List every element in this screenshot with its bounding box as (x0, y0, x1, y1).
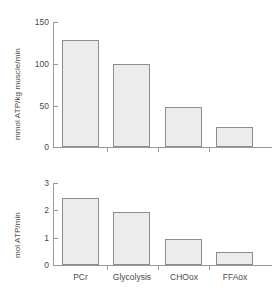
bar-bottom-choox (165, 239, 202, 265)
y-tick-mark-bottom-3 (54, 183, 58, 184)
bar-top-glycolysis (113, 64, 150, 147)
bar-top-ffaox (216, 127, 253, 147)
chart-panel-top: mmol ATP/kg muscle/min 150 100 50 0 (0, 0, 276, 158)
bar-bottom-pcr (62, 198, 99, 265)
y-tick-label-top-0: 0 (25, 143, 49, 151)
x-category-label-ffaox: FFAox (209, 272, 261, 282)
y-axis-label-bottom: mol ATP/min (13, 212, 22, 258)
y-tick-label-bottom-1: 1 (25, 234, 49, 242)
bar-bottom-ffaox (216, 252, 253, 265)
y-tick-mark-bottom-1 (54, 238, 58, 239)
x-category-label-choox: CHOox (158, 272, 210, 282)
bar-top-choox (165, 107, 202, 147)
x-tick-mark-bottom-1 (107, 266, 108, 270)
x-tick-mark-top-1 (107, 148, 108, 152)
chart-panel-bottom: mol ATP/min 3 2 1 0 PCr Glycolysis CHOox… (0, 158, 276, 305)
y-tick-mark-top-50 (54, 106, 58, 107)
figure: mmol ATP/kg muscle/min 150 100 50 0 mol … (0, 0, 276, 305)
x-tick-mark-top-2 (158, 148, 159, 152)
y-axis-line-bottom (53, 183, 54, 265)
y-tick-label-top-150: 150 (25, 18, 49, 26)
y-tick-label-top-50: 50 (25, 102, 49, 110)
x-axis-line-top (53, 147, 272, 148)
y-tick-label-bottom-0: 0 (25, 261, 49, 269)
y-axis-line-top (53, 22, 54, 148)
x-tick-mark-bottom-2 (158, 266, 159, 270)
x-category-label-pcr: PCr (56, 272, 105, 282)
y-tick-mark-top-150 (54, 22, 58, 23)
y-axis-label-top: mmol ATP/kg muscle/min (13, 48, 22, 140)
y-tick-label-bottom-2: 2 (25, 206, 49, 214)
y-tick-label-bottom-3: 3 (25, 179, 49, 187)
y-tick-label-top-100: 100 (25, 60, 49, 68)
y-tick-mark-top-100 (54, 64, 58, 65)
y-tick-mark-bottom-2 (54, 210, 58, 211)
x-axis-line-bottom (53, 265, 272, 266)
x-category-label-glycolysis: Glycolysis (104, 272, 160, 282)
bar-bottom-glycolysis (113, 212, 150, 265)
x-tick-mark-bottom-3 (209, 266, 210, 270)
x-tick-mark-top-3 (209, 148, 210, 152)
bar-top-pcr (62, 40, 99, 147)
